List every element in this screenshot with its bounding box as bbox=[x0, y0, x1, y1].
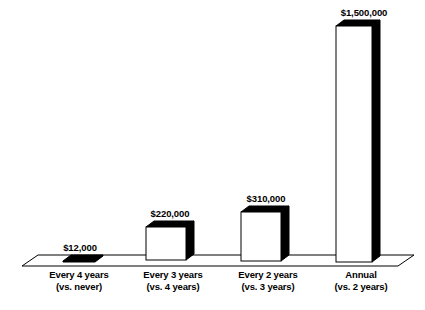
value-label-annual: $1,500,000 bbox=[318, 7, 410, 18]
bar-every-2-years[interactable] bbox=[241, 206, 289, 261]
chart-plot-area bbox=[0, 0, 425, 310]
bar-1-front-face bbox=[63, 261, 95, 262]
bar-every-4-years[interactable] bbox=[63, 255, 103, 262]
category-label-annual: Annual (vs. 2 years) bbox=[300, 269, 422, 293]
category-label-line2: (vs. 2 years) bbox=[300, 281, 422, 293]
bar-4-front-face bbox=[336, 26, 372, 262]
bar-2-front-face bbox=[146, 227, 186, 260]
bar-2-side-face bbox=[186, 221, 194, 260]
value-label-every-3-years: $220,000 bbox=[130, 208, 210, 219]
bar-chart: $12,000 $220,000 $310,000 $1,500,000 Eve… bbox=[0, 0, 425, 310]
value-label-every-4-years: $12,000 bbox=[44, 242, 116, 253]
category-label-line1: Annual bbox=[300, 269, 422, 281]
bar-every-3-years[interactable] bbox=[146, 221, 194, 260]
value-label-every-2-years: $310,000 bbox=[226, 193, 306, 204]
bar-annual[interactable] bbox=[336, 20, 380, 262]
bar-4-side-face bbox=[372, 20, 380, 262]
bar-3-side-face bbox=[281, 206, 289, 261]
bar-3-front-face bbox=[241, 212, 281, 261]
